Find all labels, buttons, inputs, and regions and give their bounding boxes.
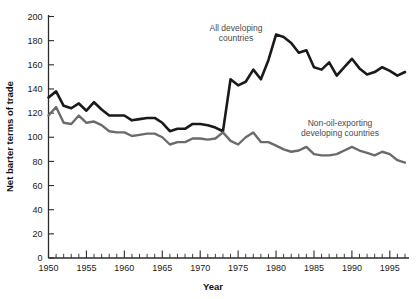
- x-tick-label: 1955: [76, 263, 96, 273]
- series-line-0: [49, 35, 406, 132]
- x-axis-title: Year: [203, 281, 223, 292]
- non-oil-exporting-label-line2: developing countries: [301, 128, 379, 138]
- x-tick-label: 1990: [342, 263, 362, 273]
- y-tick-label: 0: [37, 253, 42, 263]
- chart-container: Net barter terms of trade Year 020406080…: [0, 0, 417, 299]
- x-tick-label: 1985: [304, 263, 324, 273]
- series-group: [49, 35, 406, 163]
- non-oil-exporting-label-line1: Non-oil-exporting: [308, 118, 373, 128]
- y-tick-label: 60: [32, 181, 42, 191]
- y-tick-label: 200: [27, 12, 42, 22]
- x-tick-label: 1965: [152, 263, 172, 273]
- y-tick-label: 40: [32, 205, 42, 215]
- x-tick-label: 1980: [266, 263, 286, 273]
- axis-tick-labels-group: 0204060801001201401601802001950195519601…: [27, 12, 399, 273]
- x-tick-label: 1995: [380, 263, 400, 273]
- y-tick-label: 180: [27, 36, 42, 46]
- y-tick-label: 80: [32, 157, 42, 167]
- all-developing-countries-label-line1: All developing: [210, 23, 263, 33]
- y-tick-label: 20: [32, 229, 42, 239]
- y-tick-label: 100: [27, 132, 42, 142]
- y-tick-label: 120: [27, 108, 42, 118]
- line-chart: Net barter terms of trade Year 020406080…: [0, 0, 417, 299]
- x-tick-label: 1960: [114, 263, 134, 273]
- y-tick-label: 140: [27, 84, 42, 94]
- x-tick-label: 1975: [228, 263, 248, 273]
- y-axis-title: Net barter terms of trade: [4, 81, 15, 192]
- all-developing-countries-label-line2: countries: [219, 33, 254, 43]
- y-tick-label: 160: [27, 60, 42, 70]
- x-tick-label: 1950: [38, 263, 58, 273]
- x-tick-label: 1970: [190, 263, 210, 273]
